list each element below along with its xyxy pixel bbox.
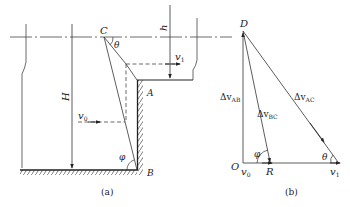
label-o: O — [231, 161, 239, 172]
figure-a: C θ A B φ H h v0 v1 (a) — [10, 5, 232, 197]
phi-arc-a — [127, 160, 134, 170]
theta-arc-a — [110, 37, 113, 45]
left-boundary-line — [22, 24, 26, 168]
label-v1-a: v1 — [175, 51, 184, 63]
vector-dv-ac-arrow — [310, 123, 324, 142]
line-step-to-a — [126, 64, 137, 80]
label-theta-b: θ — [322, 152, 328, 162]
label-v0-b: v0 — [241, 166, 251, 178]
ground-hatch — [20, 170, 137, 175]
wall-hatch — [138, 80, 143, 175]
label-dv-bc: ΔvBC — [257, 109, 278, 120]
vector-dv-bc — [243, 31, 270, 162]
label-theta-a: θ — [114, 40, 120, 50]
label-a: A — [146, 88, 154, 98]
label-c: C — [100, 25, 108, 36]
label-dv-ab: ΔvAB — [220, 92, 241, 103]
theta-arc-b — [331, 155, 333, 163]
label-r: R — [265, 166, 274, 177]
label-phi-a: φ — [119, 152, 126, 162]
label-b: B — [146, 168, 154, 178]
caption-a: (a) — [101, 187, 113, 197]
right-boundary-line — [193, 18, 197, 80]
label-dv-ac: ΔvAC — [294, 92, 315, 103]
label-phi-b: φ — [254, 149, 261, 159]
caption-b: (b) — [285, 187, 298, 197]
vector-dv-ac — [243, 31, 338, 162]
label-small-h: h — [158, 25, 169, 31]
diagram-canvas: C θ A B φ H h v0 v1 (a) D O R φ θ v0 v1 … — [0, 0, 350, 207]
label-v1-b: v1 — [330, 166, 339, 178]
label-big-h: H — [60, 92, 71, 102]
label-v0-a: v0 — [78, 110, 88, 122]
figure-b: D O R φ θ v0 v1 ΔvAB ΔvBC ΔvAC (b) — [220, 18, 340, 197]
label-d: D — [239, 18, 248, 29]
